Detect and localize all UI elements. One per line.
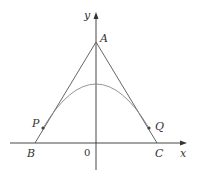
y-axis-arrow-icon [94,12,99,19]
point-B-label: B [26,147,35,160]
x-axis-arrow-icon [180,141,187,146]
point-P-dot [41,126,44,129]
x-axis-label: x [180,147,187,160]
point-P-label: P [31,117,40,130]
diagram-canvas: y A P Q B C x 0 [0,0,198,176]
point-Q-dot [147,126,150,129]
y-axis-label: y [83,9,91,22]
point-A-label: A [99,32,108,45]
origin-label: 0 [84,147,90,158]
point-Q-label: Q [155,120,164,133]
point-C-label: C [155,147,164,160]
